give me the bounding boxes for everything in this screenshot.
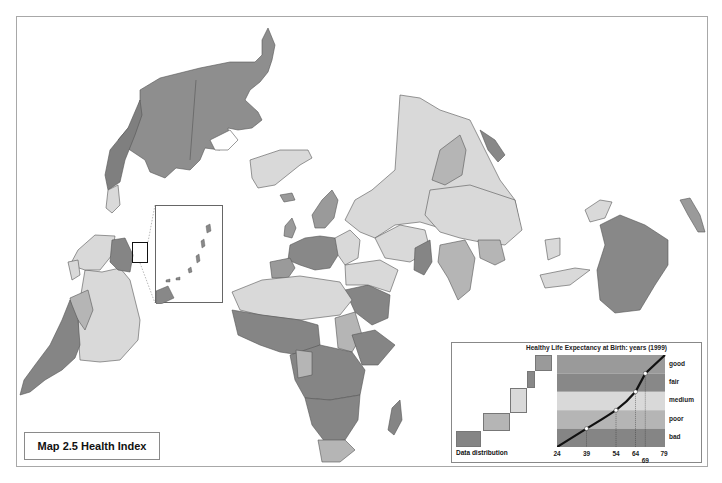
- inset-islands: [156, 206, 224, 304]
- dist-block-poor: [483, 413, 510, 431]
- region-eastern-europe: [335, 230, 360, 265]
- tick-79: 79: [660, 450, 667, 457]
- dist-block-medium: [510, 388, 527, 413]
- tick-64: 64: [632, 450, 639, 457]
- inset-guide-line-top: [148, 205, 155, 242]
- region-western-europe: [288, 236, 340, 270]
- region-greenland: [250, 150, 312, 188]
- region-uk: [284, 218, 296, 238]
- caribbean-inset-map: [155, 205, 223, 303]
- region-iceland: [280, 193, 295, 202]
- band-label-poor: poor: [669, 415, 683, 422]
- band-label-good: good: [669, 360, 685, 367]
- threshold-curve-chart: [557, 355, 667, 447]
- region-ethiopia-horn: [352, 330, 395, 365]
- region-borneo: [545, 238, 560, 260]
- dist-block-fair: [527, 371, 535, 388]
- region-iberia: [270, 258, 295, 278]
- distribution-label: Data distribution: [456, 449, 508, 456]
- tick-69: 69: [642, 457, 649, 464]
- map-title: Map 2.5 Health Index: [24, 432, 160, 460]
- region-guianas: [110, 238, 133, 272]
- region-scandinavia: [312, 190, 338, 228]
- dist-block-bad: [456, 431, 481, 447]
- band-label-medium: medium: [669, 396, 694, 403]
- region-india: [438, 240, 475, 300]
- region-gabon-congo: [296, 350, 312, 378]
- inset-locator-box: [132, 242, 148, 263]
- region-new-zealand: [680, 198, 705, 232]
- legend-panel: Healthy Life Expectancy at Birth: years …: [451, 342, 702, 463]
- region-southeast-asia: [478, 240, 505, 265]
- dist-block-good: [535, 355, 552, 371]
- region-ecuador: [68, 260, 80, 280]
- region-chile-argentina: [20, 300, 80, 395]
- band-label-bad: bad: [669, 433, 681, 440]
- region-indonesia: [540, 268, 590, 288]
- region-australia: [597, 215, 668, 313]
- legend-title: Healthy Life Expectancy at Birth: years …: [452, 344, 701, 351]
- tick-54: 54: [612, 450, 619, 457]
- region-madagascar: [388, 400, 402, 435]
- tick-24: 24: [553, 450, 560, 457]
- region-southern-africa: [305, 395, 360, 442]
- region-papua: [585, 200, 612, 222]
- region-canada: [118, 28, 275, 178]
- band-label-fair: fair: [669, 378, 679, 385]
- region-south-africa: [318, 440, 355, 462]
- tick-39: 39: [583, 450, 590, 457]
- inset-guide-line-bottom: [140, 263, 155, 303]
